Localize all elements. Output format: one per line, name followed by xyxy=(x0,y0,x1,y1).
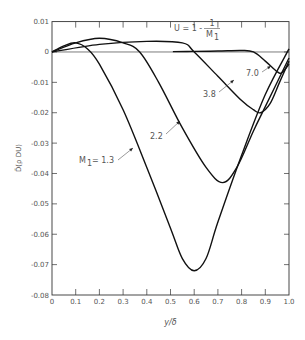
y-tick-label: -0.02 xyxy=(31,109,49,117)
formula-denominator: M xyxy=(206,30,213,39)
y-tick-label: -0.01 xyxy=(31,79,49,87)
y-tick-label: -0.06 xyxy=(31,231,50,239)
label-m1-1.3-M: M xyxy=(79,156,86,165)
y-tick-label: -0.05 xyxy=(31,200,49,208)
formula-lhs: U = 1 - xyxy=(174,24,202,33)
x-tick-label: 0.9 xyxy=(260,298,271,306)
label-3.8: 3.8 xyxy=(203,90,216,99)
label-7.0-arrowhead xyxy=(267,66,271,69)
y-axis-title: D̄(ρ DU) xyxy=(14,144,23,172)
x-tick-label: 0.1 xyxy=(70,298,81,306)
label-2.2: 2.2 xyxy=(150,132,163,141)
x-tick-label: 0.2 xyxy=(94,298,105,306)
label-m1-1.3-value: = 1.3 xyxy=(92,156,114,165)
label-7.0: 7.0 xyxy=(246,69,259,78)
formula-denominator-sub: 1 xyxy=(214,33,219,42)
chart-canvas: 00.10.20.30.40.50.60.70.80.91.00.010-0.0… xyxy=(0,0,305,340)
y-tick-label: -0.07 xyxy=(31,261,49,269)
x-tick-label: 0.5 xyxy=(165,298,176,306)
formula-numerator: 1 xyxy=(209,19,214,28)
x-tick-label: 0.7 xyxy=(212,298,223,306)
y-tick-label: 0 xyxy=(45,48,49,56)
curve-series-3 xyxy=(173,50,289,73)
y-tick-label: 0.01 xyxy=(33,18,49,26)
x-axis-title: y/δ xyxy=(163,318,176,327)
y-tick-label: -0.08 xyxy=(31,292,49,300)
plot-area: 00.10.20.30.40.50.60.70.80.91.00.010-0.0… xyxy=(14,18,295,327)
x-tick-label: 0.3 xyxy=(118,298,129,306)
x-tick-label: 0.8 xyxy=(236,298,247,306)
y-tick-label: -0.03 xyxy=(31,140,49,148)
x-tick-label: 1.0 xyxy=(283,298,294,306)
x-tick-label: 0.4 xyxy=(141,298,153,306)
x-tick-label: 0 xyxy=(50,298,54,306)
y-tick-label: -0.04 xyxy=(31,170,50,178)
x-tick-label: 0.6 xyxy=(189,298,201,306)
